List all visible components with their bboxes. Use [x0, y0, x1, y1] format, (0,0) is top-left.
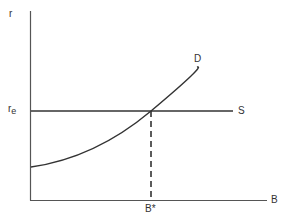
x-axis-label: B	[271, 195, 278, 205]
demand-label: D	[194, 54, 201, 64]
re-subscript: e	[11, 106, 16, 116]
demand-curve	[31, 67, 199, 167]
re-tick-label: re	[8, 104, 16, 116]
bstar-tick-label: B*	[145, 204, 156, 214]
y-axis-label: r	[9, 9, 12, 19]
supply-label: S	[238, 106, 245, 116]
